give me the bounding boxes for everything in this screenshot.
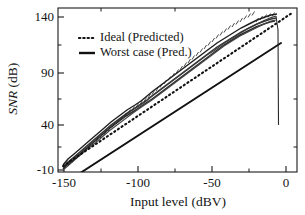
x-tick-label-0: 0 — [262, 176, 305, 189]
legend-dotted-line-icon — [78, 33, 96, 43]
y-axis-title-unit: (dB) — [5, 63, 20, 91]
y-tick-label-140: 140 — [12, 10, 54, 23]
x-tick-label-minus50: -50 — [188, 176, 236, 189]
x-tick-label-minus100: -100 — [114, 176, 162, 189]
x-tick-label-minus150: -150 — [40, 176, 88, 189]
legend-entry-ideal: Ideal (Predicted) — [78, 31, 192, 44]
legend-label-ideal: Ideal (Predicted) — [100, 31, 184, 44]
y-axis-title-symbol: SNR — [5, 91, 20, 115]
x-axis-title: Input level (dBV) — [58, 195, 298, 209]
chart-figure: 140 90 40 -10 -150 -100 -50 0 Input leve… — [0, 0, 305, 215]
y-tick-label-minus10: -10 — [12, 163, 54, 176]
legend-label-worst-case: Worst case (Pred.) — [100, 46, 192, 59]
legend-solid-line-icon — [78, 48, 96, 58]
chart-legend: Ideal (Predicted) Worst case (Pred.) — [78, 31, 192, 59]
y-axis-title: SNR (dB) — [6, 39, 20, 139]
legend-entry-worst-case: Worst case (Pred.) — [78, 46, 192, 59]
